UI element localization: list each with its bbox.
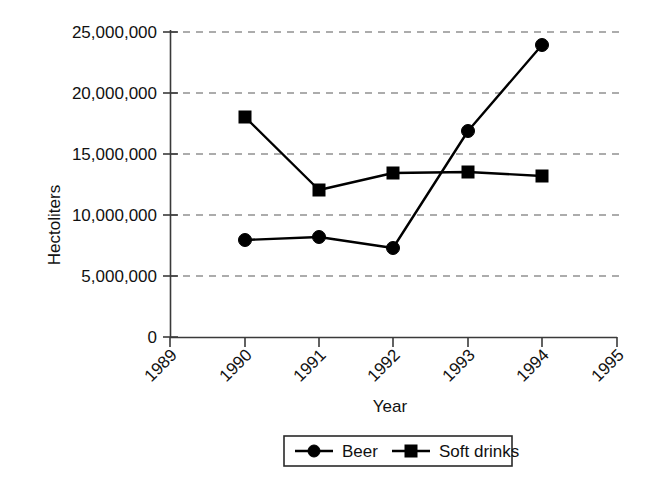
data-point-beer-1991 bbox=[313, 231, 326, 244]
legend-label-beer: Beer bbox=[342, 442, 378, 461]
data-point-soft-drinks-1990 bbox=[239, 111, 251, 123]
x-tick-label-1990: 1990 bbox=[216, 345, 256, 385]
data-point-beer-1992 bbox=[387, 242, 400, 255]
y-tick-label-0: 0 bbox=[148, 328, 157, 347]
data-point-soft-drinks-1994 bbox=[536, 170, 548, 182]
line-chart: 25,000,000 20,000,000 15,000,000 10,000,… bbox=[0, 0, 666, 483]
y-tick-label-15m: 15,000,000 bbox=[72, 145, 157, 164]
x-tick-label-1995: 1995 bbox=[588, 345, 628, 385]
legend-label-soft-drinks: Soft drinks bbox=[439, 442, 519, 461]
y-tick-label-20m: 20,000,000 bbox=[72, 84, 157, 103]
chart-canvas: 25,000,000 20,000,000 15,000,000 10,000,… bbox=[0, 0, 666, 483]
x-tick-label-1994: 1994 bbox=[513, 345, 553, 385]
y-axis-title: Hectoliters bbox=[45, 185, 64, 265]
x-tick-label-1989: 1989 bbox=[141, 345, 181, 385]
data-point-beer-1990 bbox=[239, 234, 252, 247]
y-tick-label-5m: 5,000,000 bbox=[81, 267, 157, 286]
series-beer bbox=[239, 39, 549, 255]
data-point-beer-1993 bbox=[462, 125, 475, 138]
data-point-beer-1994 bbox=[536, 39, 549, 52]
x-tick-label-1992: 1992 bbox=[364, 345, 404, 385]
x-axis-title: Year bbox=[373, 397, 408, 416]
y-tick-label-25m: 25,000,000 bbox=[72, 23, 157, 42]
chart-legend: Beer Soft drinks bbox=[284, 436, 519, 466]
series-line-beer bbox=[245, 45, 542, 248]
legend-marker-square-icon bbox=[405, 445, 417, 457]
data-point-soft-drinks-1992 bbox=[387, 167, 399, 179]
x-axis-ticks bbox=[170, 337, 617, 347]
y-tick-label-10m: 10,000,000 bbox=[72, 206, 157, 225]
x-tick-label-1991: 1991 bbox=[290, 345, 330, 385]
gridlines bbox=[170, 32, 620, 276]
data-point-soft-drinks-1993 bbox=[462, 166, 474, 178]
data-point-soft-drinks-1991 bbox=[313, 184, 325, 196]
legend-marker-circle-icon bbox=[308, 445, 320, 457]
x-tick-label-1993: 1993 bbox=[439, 345, 479, 385]
